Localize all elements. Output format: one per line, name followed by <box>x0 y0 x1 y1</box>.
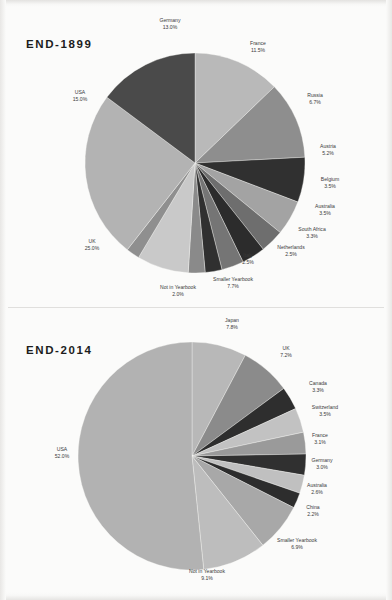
pie-label-name-smaller-yearbook: Smaller Yearbook <box>213 276 253 282</box>
pie-chart-end-1899: Germany13.0%France11.5%Russia6.7%Austria… <box>0 0 392 308</box>
pie-label-value-france: 11.5% <box>251 47 266 53</box>
pie-label-value-germany: 3.0% <box>316 464 328 470</box>
pie-label-name-japan: Japan <box>225 317 239 323</box>
pie-label-value-france: 3.1% <box>314 439 326 445</box>
pie-label-name-usa: USA <box>75 89 86 95</box>
chart-panel-end-2014: END-2014 Japan7.8%UK7.2%Canada3.3%Switze… <box>0 308 392 600</box>
pie-label-name-germany: Germany <box>312 457 333 463</box>
pie-label-name-switzerland: Switzerland <box>312 404 338 410</box>
pie-label-name-russia: Russia <box>307 92 323 98</box>
pie-label-value-south-africa: 3.3% <box>306 233 318 239</box>
pie-label-value-uk: 25.0% <box>85 245 100 251</box>
pie-label-value-russia: 6.7% <box>309 99 321 105</box>
pie-label-value-australia: 2.6% <box>311 489 323 495</box>
pie-label-value-smaller-yearbook: 7.7% <box>227 283 239 289</box>
pie-slices-2014 <box>78 342 306 570</box>
pie-label-name-not-in-yearbook: Not in Yearbook <box>189 568 225 574</box>
pie-label-value-uk: 7.2% <box>280 352 292 358</box>
pie-label-name-france: France <box>312 432 328 438</box>
pie-label-name-australia: Australia <box>307 482 327 488</box>
pie-label-name-france: France <box>250 40 266 46</box>
pie-label-name-canada: Canada <box>309 380 327 386</box>
pie-label-value-usa: 52.0% <box>55 453 70 459</box>
pie-label-value-china: 2.2% <box>307 511 319 517</box>
pie-label-name-smaller-yearbook: Smaller Yearbook <box>277 537 317 543</box>
pie-label-value-austria: 5.2% <box>322 150 334 156</box>
pie-label-name-china: China <box>306 504 319 510</box>
pie-label-name-usa: USA <box>57 446 68 452</box>
pie-label-name-uk: UK <box>88 238 96 244</box>
pie-label-value-australia: 3.5% <box>319 210 331 216</box>
pie-label-value-canada: 3.3% <box>312 387 324 393</box>
pie-label-value-germany: 13.0% <box>163 24 178 30</box>
pie-slices-1899 <box>85 53 305 273</box>
pie-label-name-germany: Germany <box>160 17 181 23</box>
pie-label-value-not-in-yearbook: 9.1% <box>201 575 213 581</box>
pie-slice-usa[interactable] <box>78 342 204 570</box>
pie-label-name-uk: UK <box>282 345 290 351</box>
pie-label-value-japan: 7.8% <box>226 324 238 330</box>
pie-label-value-switzerland: 3.5% <box>319 411 331 417</box>
pie-label-name-australia: Australia <box>315 203 335 209</box>
chart-panel-end-1899: END-1899 Germany13.0%France11.5%Russia6.… <box>0 0 392 308</box>
pie-label-value-smaller-yearbook: 6.9% <box>291 544 303 550</box>
pie-label-name-south-africa: South Africa <box>298 226 326 232</box>
pie-label-value-netherlands: 2.5% <box>285 251 297 257</box>
pie-label-name-not-in-yearbook: Not in Yearbook <box>160 284 196 290</box>
pie-label-name-netherlands: Netherlands <box>277 244 305 250</box>
pie-label-name-belgium: Belgium <box>321 176 339 182</box>
pie-label-value-italy: 2.5% <box>242 259 254 265</box>
pie-label-name-italy: Italy <box>243 252 253 258</box>
pie-label-name-austria: Austria <box>320 143 336 149</box>
pie-label-value-usa: 15.0% <box>73 96 88 102</box>
scanned-page: END-1899 Germany13.0%France11.5%Russia6.… <box>0 0 392 600</box>
pie-label-value-not-in-yearbook: 2.0% <box>172 291 184 297</box>
pie-label-value-belgium: 3.5% <box>324 183 336 189</box>
pie-chart-end-2014: Japan7.8%UK7.2%Canada3.3%Switzerland3.5%… <box>0 308 392 600</box>
